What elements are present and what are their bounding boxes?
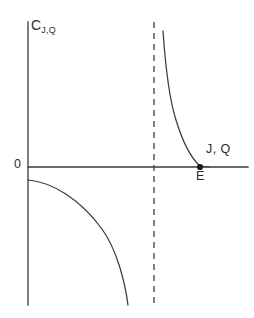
axes-group [28,22,248,305]
plot-canvas [0,0,254,318]
y-axis-symbol: C [31,17,41,33]
figure-container: CJ,Q J, Q 0 E [0,0,254,318]
point-e-label: E [196,170,204,183]
upper-branch-curve [163,31,209,167]
y-axis-label: CJ,Q [31,18,56,32]
x-axis-label: J, Q [206,143,231,156]
lower-branch-curve [28,180,128,305]
origin-label: 0 [14,158,21,171]
y-axis-subscript: J,Q [41,25,56,35]
